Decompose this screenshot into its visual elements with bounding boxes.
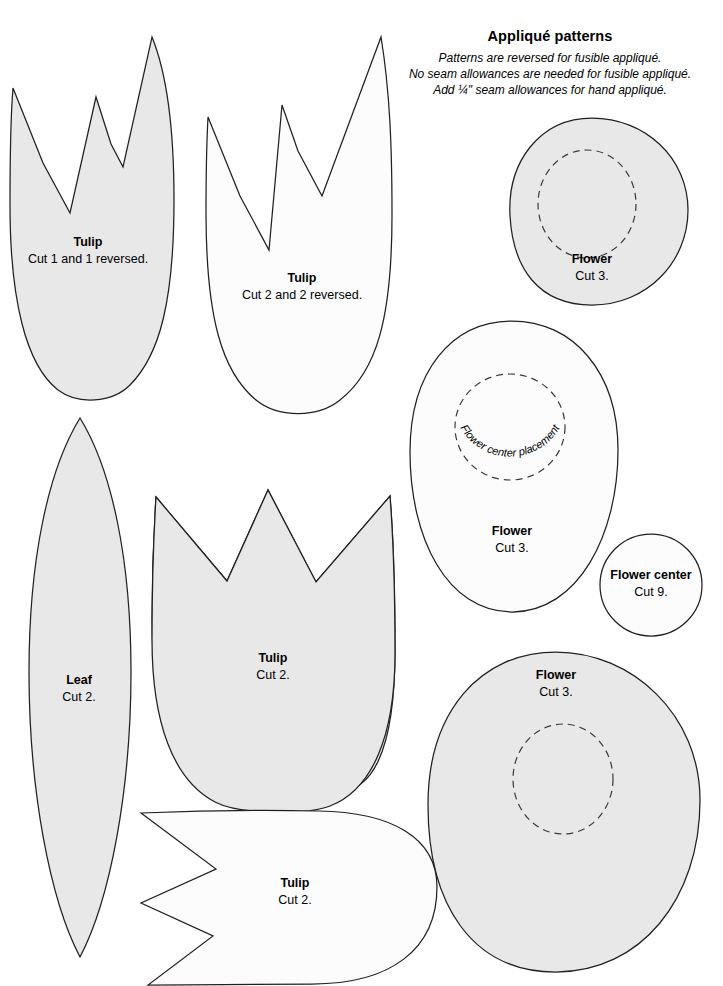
label-flower-center-name: Flower center bbox=[610, 568, 691, 582]
label-flower-3-cut: Cut 3. bbox=[539, 685, 572, 699]
label-flower-2-cut: Cut 3. bbox=[495, 541, 528, 555]
label-tulip-3-cut: Cut 2. bbox=[256, 668, 289, 682]
label-leaf-name: Leaf bbox=[66, 673, 93, 687]
label-tulip-4-cut: Cut 2. bbox=[278, 893, 311, 907]
label-flower-1-cut: Cut 3. bbox=[575, 269, 608, 283]
label-tulip-3-name: Tulip bbox=[259, 651, 288, 665]
label-tulip-4-name: Tulip bbox=[281, 876, 310, 890]
label-leaf-cut: Cut 2. bbox=[62, 690, 95, 704]
label-tulip-1-name: Tulip bbox=[74, 235, 103, 249]
shape-tulip-2 bbox=[206, 37, 392, 414]
label-tulip-2-name: Tulip bbox=[288, 271, 317, 285]
label-tulip-2-cut: Cut 2 and 2 reversed. bbox=[242, 288, 362, 302]
pattern-canvas: Tulip Cut 1 and 1 reversed. Tulip Cut 2 … bbox=[0, 0, 723, 986]
shape-tulip-1 bbox=[10, 37, 174, 400]
pattern-sheet-page: Appliqué patterns Patterns are reversed … bbox=[0, 0, 723, 986]
label-flower-3-name: Flower bbox=[536, 668, 576, 682]
shape-leaf bbox=[29, 418, 131, 957]
shape-flower-2 bbox=[410, 321, 618, 612]
shape-flower-3 bbox=[428, 652, 700, 972]
label-flower-1-name: Flower bbox=[572, 252, 612, 266]
label-flower-center-cut: Cut 9. bbox=[634, 585, 667, 599]
label-tulip-1-cut: Cut 1 and 1 reversed. bbox=[28, 252, 148, 266]
label-flower-2-name: Flower bbox=[492, 524, 532, 538]
